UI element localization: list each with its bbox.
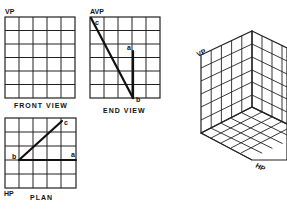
plan-point-c: c: [64, 119, 68, 126]
isometric-hp-label: HP: [255, 162, 267, 173]
end-view-plane-label: AVP: [90, 8, 104, 15]
plan-point-b: b: [12, 153, 16, 160]
front-view-caption: FRONT VIEW: [14, 102, 68, 109]
plan-caption: PLAN: [30, 194, 53, 201]
isometric-view: [201, 31, 287, 160]
plan-plane-label: HP: [4, 190, 14, 197]
isometric-vp-label: VP: [195, 47, 207, 57]
end-view-point-a: a: [127, 44, 131, 51]
end-view-grid: [90, 17, 160, 98]
end-view-point-c: c: [95, 19, 99, 26]
projection-diagram: VP FRONT VIEW AVP c a b END VIEW c b a H…: [0, 0, 287, 209]
front-view-grid: [5, 17, 75, 98]
end-view-point-b: b: [136, 96, 140, 103]
end-view-caption: END VIEW: [103, 107, 146, 114]
plan-line-bc: [19, 121, 62, 160]
plan-point-a: a: [71, 151, 75, 158]
front-view-plane-label: VP: [5, 8, 15, 15]
